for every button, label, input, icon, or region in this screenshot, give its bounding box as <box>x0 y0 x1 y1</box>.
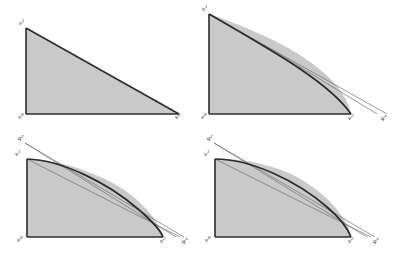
feasible-region-fill <box>27 159 163 237</box>
figure-grid: v1 v0 v2 v1 v0 v2 qx <box>0 0 402 254</box>
panel-c-canvas <box>0 127 201 254</box>
vertex-label-v0-origin: v0 <box>201 114 207 121</box>
feasible-region-fill <box>215 159 351 237</box>
vertex-label-v2-right: v2 <box>175 114 181 121</box>
feasible-region-fill <box>209 14 351 114</box>
panel-d: qy v1 v0 v2 qx <box>201 127 402 254</box>
vertex-label-qx-right: qx <box>373 238 379 245</box>
vertex-label-v2-right: v2 <box>160 238 166 245</box>
vertex-label-v2-right: v2 <box>348 238 354 245</box>
vertex-label-v0-origin: v0 <box>205 237 211 244</box>
panel-a: v1 v0 v2 <box>0 0 201 127</box>
panel-a-canvas <box>0 0 201 127</box>
vertex-label-v1-top: v1 <box>202 6 208 13</box>
panel-b: v1 v0 v2 qx <box>201 0 402 127</box>
panel-b-canvas <box>201 0 402 127</box>
vertex-label-v1-top: v1 <box>15 151 21 158</box>
panel-c: qy v1 v0 v2 qx <box>0 127 201 254</box>
panel-d-canvas <box>201 127 402 254</box>
vertex-label-qx-right: qx <box>381 115 387 122</box>
vertex-label-v1-top: v1 <box>19 20 25 27</box>
vertex-label-qy-top: qy <box>18 135 24 142</box>
vertex-label-qy-top: qy <box>207 135 213 142</box>
vertex-label-v0-origin: v0 <box>18 114 24 121</box>
vertex-label-v2-right: v2 <box>348 115 354 122</box>
vertex-label-v1-top: v1 <box>204 151 210 158</box>
vertex-label-v0-origin: v0 <box>17 237 23 244</box>
vertex-label-qx-right: qx <box>182 238 188 245</box>
